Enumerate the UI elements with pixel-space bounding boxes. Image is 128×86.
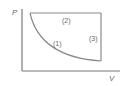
y-axis-label: P <box>12 8 18 17</box>
x-axis-label: V <box>109 74 115 83</box>
process-2-label: (2) <box>62 17 71 25</box>
process-3-label: (3) <box>89 35 98 43</box>
axes <box>22 9 120 71</box>
process-1-label: (1) <box>53 40 62 48</box>
pv-diagram: P V (2) (1) (3) <box>0 0 128 86</box>
